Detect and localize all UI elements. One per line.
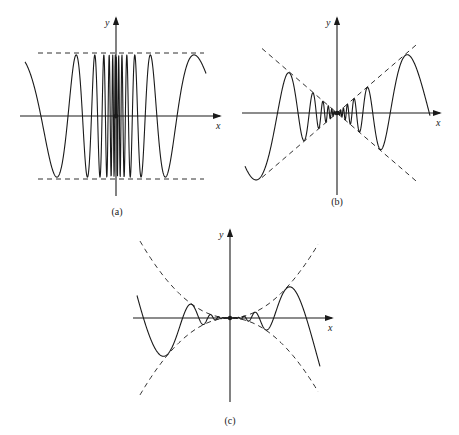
caption-a: (a) (111, 206, 122, 218)
x-axis-label-b: x (435, 117, 441, 128)
caption-c: (c) (224, 415, 235, 427)
origin-dot-c (228, 316, 232, 320)
origin-dot-a (114, 114, 118, 118)
envelope-upper-c (140, 241, 318, 318)
y-axis-label-b: y (325, 17, 331, 28)
figure: x y (a) x y (b) x y (c) (0, 0, 459, 435)
panel-b: x y (b) (242, 17, 441, 208)
envelope-lower-c (140, 318, 318, 395)
panel-c: x y (c) (133, 229, 333, 427)
y-axis-label-a: y (104, 17, 110, 28)
x-axis-label-c: x (327, 322, 333, 333)
caption-b: (b) (331, 196, 343, 208)
x-axis-label-a: x (215, 120, 221, 131)
y-axis-label-c: y (218, 229, 224, 240)
origin-dot-b (335, 111, 339, 115)
panel-a: x y (a) (20, 17, 221, 218)
